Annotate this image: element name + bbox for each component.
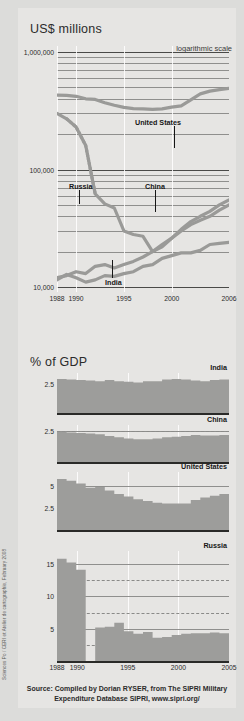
log-xtick-1995: 1995: [116, 295, 131, 302]
gdp-india-ytick-2.5: 2.5: [45, 380, 54, 387]
gdp-russia-xtick-2005: 2005: [221, 664, 236, 671]
log-series-label-russia: Russia: [69, 182, 93, 191]
source-note: Source: Compiled by Dorian RYSER, from T…: [22, 684, 232, 704]
log-ytick-10000: 10,000: [33, 284, 54, 291]
gdp-china-area-layer: [57, 425, 229, 462]
log-leader-united-states: [174, 126, 175, 148]
gdp-india-baseline: [57, 413, 229, 415]
page-title-usd: US$ millions: [30, 22, 102, 36]
gdp-russia-ytick-10: 10: [46, 593, 54, 600]
us-plot-area: [57, 472, 229, 530]
gdp-russia-ytick-15: 15: [46, 560, 54, 567]
gdp-russia-ytick-5: 5: [50, 625, 54, 632]
log-leader-india: [112, 260, 113, 278]
gdp-india-area-layer: [57, 373, 229, 413]
log-xtick-2000: 2000: [164, 295, 179, 302]
log-leader-china: [155, 190, 156, 212]
gdp-united-states-area: [57, 479, 229, 530]
log-ytick-100000: 100,000: [29, 166, 54, 173]
gdp-india-area: [57, 379, 229, 413]
log-series-label-india: India: [105, 278, 122, 287]
chart-gdp-china: 2.5China: [57, 425, 229, 462]
gdp-united-states-ytick-2.5: 2.5: [45, 505, 54, 512]
chart-gdp-india: 2.5India: [57, 373, 229, 413]
gdp-russia-xtick-1988: 1988: [49, 664, 64, 671]
chart-military-expenditure-absolute: United StatesRussiaChinaIndia 1,000,0001…: [57, 46, 229, 292]
gdp-russia-area-layer: [57, 551, 229, 661]
gdp-russia-xtick-2000: 2000: [171, 664, 186, 671]
gdp-united-states-label: United States: [181, 462, 227, 471]
china-plot-area: [57, 425, 229, 462]
credit-line: Sciences Po / CERI et Atelier de cartogr…: [2, 500, 7, 680]
gdp-india-label: India: [210, 363, 227, 372]
gdp-russia-area: [57, 559, 229, 661]
india-plot-area: [57, 373, 229, 413]
gdp-united-states-baseline: [57, 530, 229, 532]
gdp-china-ytick-2.5: 2.5: [45, 428, 54, 435]
log-xtick-1990: 1990: [69, 295, 84, 302]
source-line-2: Expenditure Database SIPRI, www.sipri.or…: [22, 694, 232, 704]
log-series-layer: [57, 46, 229, 292]
log-xtick-2006: 2006: [221, 295, 236, 302]
gdp-russia-baseline: [57, 661, 229, 663]
chart-gdp-russia: 15105Russia19881990199520002005: [57, 551, 229, 661]
gdp-russia-xtick-1995: 1995: [120, 664, 135, 671]
russia-plot-area: [57, 551, 229, 661]
source-line-1: Source: Compiled by Dorian RYSER, from T…: [22, 684, 232, 694]
log-ytick-1000000: 1,000,000: [24, 49, 54, 56]
chart-gdp-united-states: 52.5United States: [57, 472, 229, 530]
log-series-united-states: [57, 88, 229, 109]
log-chart-plot-area: United StatesRussiaChinaIndia: [57, 46, 229, 292]
infographic-page: Sciences Po / CERI et Atelier de cartogr…: [0, 0, 244, 721]
gdp-china-area: [57, 432, 229, 462]
gdp-united-states-ytick-5: 5: [50, 483, 54, 490]
gdp-china-label: China: [207, 415, 227, 424]
gdp-russia-xtick-1990: 1990: [70, 664, 85, 671]
log-xtick-1988: 1988: [49, 295, 64, 302]
log-leader-russia: [79, 190, 80, 204]
log-series-india: [57, 242, 229, 282]
gdp-united-states-area-layer: [57, 472, 229, 530]
page-title-gdp: % of GDP: [30, 355, 87, 369]
gdp-russia-label: Russia: [203, 541, 227, 550]
